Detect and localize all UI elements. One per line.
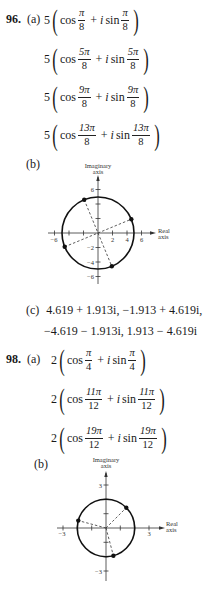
denominator: 4 bbox=[129, 361, 134, 373]
numerator: 11π bbox=[85, 387, 102, 400]
dashed-line bbox=[78, 521, 106, 528]
imaginary-unit: i bbox=[117, 392, 120, 407]
right-paren: ) bbox=[140, 345, 146, 375]
part-c-answer-line2: −4.619 − 1.913i, 1.913 − 4.619i bbox=[44, 324, 197, 339]
fraction: π4 bbox=[128, 348, 135, 372]
root-point bbox=[129, 217, 133, 221]
y-tick-label: 3 bbox=[99, 482, 102, 489]
y-tick-label: −2 bbox=[87, 244, 94, 251]
numerator: 19π bbox=[139, 426, 157, 439]
fraction: 11π12 bbox=[85, 387, 102, 411]
denominator: 4 bbox=[86, 361, 91, 373]
cos-text: cos bbox=[67, 353, 83, 368]
y-tick-label: −4 bbox=[87, 259, 95, 266]
root-expression-98-1: 2 ( cos π4 + i sin π4 ) bbox=[51, 345, 148, 375]
root-point bbox=[110, 264, 114, 268]
y-arrow-icon bbox=[96, 175, 99, 181]
x-tick-label: −3 bbox=[59, 530, 66, 537]
y-axis-label-2: axis bbox=[101, 462, 112, 469]
dashed-line bbox=[106, 528, 113, 556]
root-point bbox=[62, 245, 66, 249]
numerator: 11π bbox=[138, 387, 155, 400]
y-tick-label: 6 bbox=[91, 186, 95, 193]
numerator: 19π bbox=[85, 426, 103, 439]
left-paren: ( bbox=[59, 384, 65, 414]
fraction: π4 bbox=[85, 348, 92, 372]
coefficient: 2 bbox=[51, 392, 57, 407]
sin-text: sin bbox=[112, 353, 126, 368]
x-arrow-icon bbox=[150, 231, 156, 234]
fraction: 11π12 bbox=[138, 387, 155, 411]
coefficient: 2 bbox=[51, 353, 57, 368]
root-point bbox=[111, 554, 115, 558]
root-point bbox=[76, 518, 80, 522]
sin-text: sin bbox=[122, 392, 136, 407]
x-arrow-icon bbox=[159, 526, 165, 529]
part-c-answer-line1: 4.619 + 1.913i, −1.913 + 4.619i, bbox=[46, 303, 202, 317]
x-tick-label: 6 bbox=[140, 236, 144, 243]
numerator: π bbox=[85, 348, 92, 361]
plus-sign: + bbox=[97, 353, 104, 368]
problem-number-98: 98. bbox=[6, 352, 21, 367]
root-point bbox=[82, 198, 86, 202]
denominator: 12 bbox=[141, 400, 152, 412]
y-arrow-icon bbox=[104, 471, 107, 477]
x-axis-label-2: axis bbox=[158, 233, 169, 240]
part-c-96: (c) 4.619 + 1.913i, −1.913 + 4.619i, bbox=[26, 303, 202, 318]
part-a-label-98: (a) bbox=[27, 352, 40, 367]
complex-plane-graph-98: Imaginary axis Real axis −3 3 3 −3 bbox=[0, 440, 220, 605]
x-tick-label: −6 bbox=[51, 236, 59, 243]
denominator: 12 bbox=[88, 400, 99, 412]
plus-sign: + bbox=[107, 392, 114, 407]
x-tick-label: 2 bbox=[111, 236, 114, 243]
imaginary-unit: i bbox=[107, 353, 110, 368]
root-point bbox=[124, 506, 128, 510]
y-axis-label-2: axis bbox=[93, 168, 104, 175]
part-c-label: (c) bbox=[26, 303, 39, 317]
x-tick-label: 3 bbox=[147, 530, 150, 537]
x-tick-label: 4 bbox=[125, 236, 129, 243]
dashed-line bbox=[106, 508, 126, 528]
right-paren: ) bbox=[159, 384, 165, 414]
numerator: π bbox=[128, 348, 135, 361]
y-tick-label: −6 bbox=[87, 273, 95, 280]
x-axis-label-2: axis bbox=[166, 526, 177, 533]
root-expression-98-2: 2 ( cos 11π12 + i sin 11π12 ) bbox=[51, 384, 167, 414]
y-tick-label: −3 bbox=[95, 568, 102, 575]
left-paren: ( bbox=[59, 345, 65, 375]
complex-plane-graph-96: Imaginary axis Real axis −6 2 4 6 6 −2 −… bbox=[0, 0, 220, 300]
cos-text: cos bbox=[67, 392, 83, 407]
